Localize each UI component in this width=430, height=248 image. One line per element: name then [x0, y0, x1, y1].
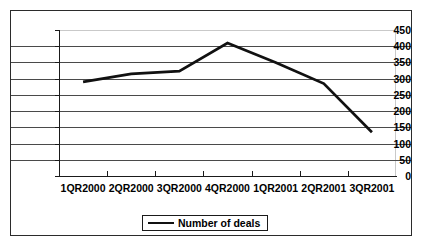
line-path: [83, 43, 372, 132]
line-swatch-icon: [148, 222, 174, 224]
legend-label: Number of deals: [178, 218, 260, 229]
chart-legend: Number of deals: [142, 215, 268, 231]
x-axis-tick-label: 3QR2001: [342, 182, 402, 194]
series-number-of-deals: [59, 30, 396, 177]
chart-frame: 450400350300250200150100500 1QR20002QR20…: [10, 10, 412, 236]
